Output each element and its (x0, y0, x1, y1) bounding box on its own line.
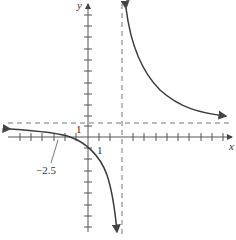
x-axis (8, 133, 232, 141)
y-axis-label: y (77, 0, 82, 11)
y-axis (84, 4, 92, 232)
right-branch-curve (126, 8, 226, 116)
y-unit-label: 1 (76, 124, 82, 135)
x-intercept-label: −2.5 (36, 165, 56, 176)
x-axis-label: x (229, 141, 234, 152)
x-intercept-leader (51, 140, 58, 163)
graph-canvas (0, 0, 236, 240)
x-unit-label: 1 (97, 145, 103, 156)
